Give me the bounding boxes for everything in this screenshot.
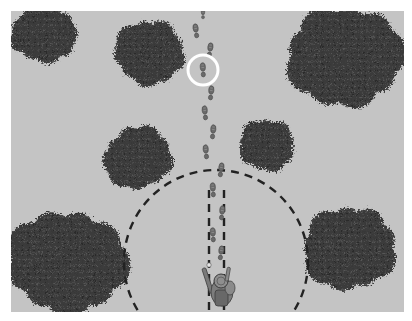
footprint-icon xyxy=(210,125,217,140)
bush-bottom-left xyxy=(11,212,130,312)
bush-top-center-left xyxy=(114,21,185,87)
footprint-icon xyxy=(210,228,216,242)
footprint-icon xyxy=(200,63,206,77)
game-field[interactable]: top-down tracking map highlighted footpr… xyxy=(11,11,404,312)
footprint-icon xyxy=(202,106,209,121)
bush-mid-left xyxy=(102,125,173,189)
soldier-player[interactable] xyxy=(202,263,235,306)
footprint-icon xyxy=(192,24,199,39)
bush-bottom-right xyxy=(304,207,396,290)
game-canvas xyxy=(11,11,404,312)
footprint-icon xyxy=(219,206,226,221)
footprint-icon xyxy=(208,86,215,101)
bush-top-right xyxy=(287,11,404,109)
footprint-icon xyxy=(203,145,210,160)
soldier-icon[interactable] xyxy=(202,263,235,306)
footprint-icon xyxy=(210,183,216,197)
bush-mid-right xyxy=(240,120,294,172)
footprint-icon xyxy=(201,11,205,19)
bush-top-left xyxy=(11,11,77,64)
